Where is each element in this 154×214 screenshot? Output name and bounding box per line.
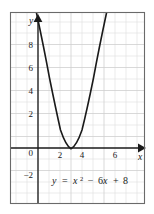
x-tick-label-6: 6 bbox=[113, 150, 118, 160]
y-tick-label-0: 0 bbox=[29, 148, 34, 158]
y-tick-label-8: 8 bbox=[29, 40, 34, 50]
x-tick-label-4: 4 bbox=[80, 150, 85, 160]
y-axis-label: y bbox=[28, 16, 34, 26]
y-tick-label-2: 2 bbox=[29, 109, 34, 119]
equation-plus: + bbox=[113, 175, 119, 186]
x-axis-label: x bbox=[137, 152, 143, 162]
equation-exponent: 2 bbox=[80, 175, 83, 182]
equation-variable: x bbox=[72, 175, 78, 186]
y-tick-label-6: 6 bbox=[29, 63, 34, 73]
equation-lhs: y bbox=[51, 175, 57, 186]
y-tick-label-minus2: −2 bbox=[23, 170, 33, 180]
equation-equals: = bbox=[62, 175, 68, 186]
equation-constant: 8 bbox=[123, 175, 128, 186]
y-tick-label-4: 4 bbox=[29, 86, 34, 96]
x-tick-label-2: 2 bbox=[58, 150, 63, 160]
graph-figure: x y 8 6 4 2 0 −2 2 4 6 y = x 2 − 6x + 8 bbox=[0, 0, 154, 214]
equation-minus: − bbox=[88, 175, 94, 186]
equation-linear-variable: x bbox=[102, 175, 108, 186]
equation-linear-term: 6x bbox=[98, 175, 110, 186]
parabola-chart-svg: x y 8 6 4 2 0 −2 2 4 6 y = x 2 − 6x + 8 bbox=[0, 0, 154, 214]
